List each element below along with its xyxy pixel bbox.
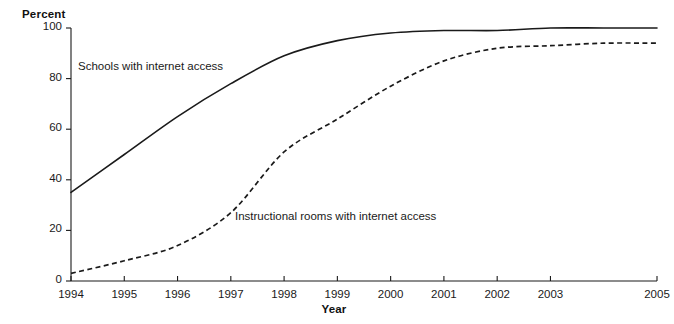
series-line-instructional-rooms (71, 43, 657, 273)
series-lines (71, 28, 657, 274)
series-line-schools (71, 28, 657, 193)
axes (66, 28, 657, 281)
